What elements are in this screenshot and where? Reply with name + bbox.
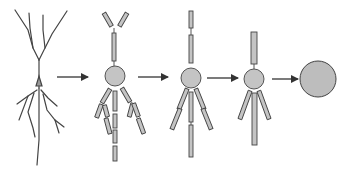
axon-fragment <box>113 130 117 143</box>
dendrite-fragment <box>257 90 271 120</box>
axon <box>37 88 39 165</box>
stage-1-intact-neuron <box>15 10 67 165</box>
apical-fragment <box>189 11 193 28</box>
dendrite-fragment <box>201 108 213 130</box>
soma <box>181 68 201 88</box>
soma <box>244 69 264 89</box>
apical-branch-left <box>15 10 39 60</box>
stage-4-minimal <box>238 32 271 145</box>
apical-fragment <box>189 35 193 63</box>
dendrite-fragment <box>177 88 189 110</box>
fragment <box>102 12 113 27</box>
soma <box>36 76 42 86</box>
diagram-canvas <box>0 0 346 179</box>
axon-fragment <box>189 92 193 122</box>
dendrite-fragment <box>194 88 206 110</box>
dendrite-fragment <box>103 105 110 118</box>
dendrite-fragment <box>170 108 182 130</box>
stage-5-isolated-soma <box>300 61 336 97</box>
axon-fragment <box>113 91 117 111</box>
soma <box>105 66 125 86</box>
dendrite-fragment <box>104 118 112 134</box>
axon-fragment <box>252 93 257 145</box>
neuron-degeneration-diagram <box>0 0 346 179</box>
apical-fragment <box>251 32 257 64</box>
fragment <box>118 12 129 27</box>
dendrite-fragment <box>120 87 131 103</box>
apical-fragment <box>112 33 116 61</box>
stage-3-reduced <box>170 11 213 157</box>
stage-2-fragmented <box>95 12 146 161</box>
axon-fragment <box>113 114 117 128</box>
dendrite-fragment <box>95 104 104 119</box>
dendrite-fragment <box>238 90 252 120</box>
soma <box>300 61 336 97</box>
axon-fragment <box>113 146 117 161</box>
dendrite-fragment <box>136 118 145 134</box>
dendrite-fragment <box>100 88 111 104</box>
axon-fragment <box>189 125 193 157</box>
